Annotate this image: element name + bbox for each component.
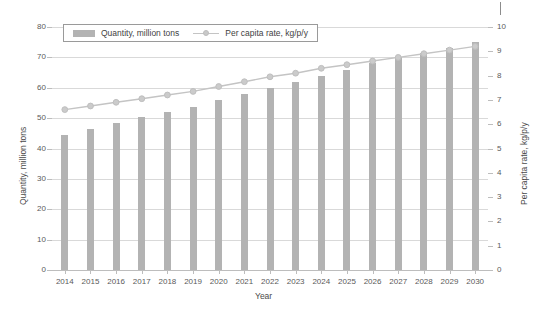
y2-axis-tick-label: 9	[497, 47, 531, 55]
plot-area	[52, 27, 488, 270]
line-marker	[472, 44, 478, 50]
x-axis-tick-label: 2022	[256, 278, 284, 286]
x-axis-title: Year	[255, 291, 272, 301]
x-axis-tick	[398, 270, 399, 274]
x-axis-tick	[347, 270, 348, 274]
y-axis-tick-label: 50	[12, 114, 46, 122]
y2-axis-tick-label: 10	[497, 23, 531, 31]
x-axis-tick-label: 2020	[205, 278, 233, 286]
line-marker	[242, 79, 248, 85]
line-marker	[113, 99, 119, 105]
x-axis-tick-label: 2015	[76, 278, 104, 286]
x-axis-tick-label: 2024	[307, 278, 335, 286]
line-marker	[293, 70, 299, 76]
x-axis-tick	[193, 270, 194, 274]
line-marker	[421, 51, 427, 57]
x-axis-tick	[90, 270, 91, 274]
line-marker	[165, 92, 171, 98]
page-corner-mark	[500, 2, 501, 15]
y-axis-tick-label: 30	[12, 175, 46, 183]
x-axis-tick	[475, 270, 476, 274]
y2-axis-tick-label: 8	[497, 72, 531, 80]
x-axis-tick-label: 2021	[230, 278, 258, 286]
y2-axis-tick-label: 1	[497, 242, 531, 250]
legend-label-per-capita: Per capita rate, kg/p/y	[225, 28, 308, 38]
line-marker	[318, 65, 324, 71]
legend-label-quantity: Quantity, million tons	[101, 28, 179, 38]
y2-axis-tick-label: 0	[497, 266, 531, 274]
y-axis-tick-label: 70	[12, 53, 46, 61]
y2-axis-tick-label: 7	[497, 96, 531, 104]
legend-bar-swatch-icon	[73, 30, 95, 37]
x-axis-tick	[296, 270, 297, 274]
x-axis-tick	[142, 270, 143, 274]
x-axis-tick-label: 2025	[333, 278, 361, 286]
line-marker	[395, 55, 401, 61]
line-marker	[447, 47, 453, 53]
y2-axis-tick-label: 3	[497, 193, 531, 201]
y-axis-tick-label: 0	[12, 266, 46, 274]
x-axis-tick	[424, 270, 425, 274]
y-axis-tick	[47, 240, 52, 241]
y-axis-tick	[47, 88, 52, 89]
y-axis-tick	[47, 118, 52, 119]
x-axis-tick-label: 2028	[410, 278, 438, 286]
y2-axis-tick	[488, 124, 493, 125]
x-axis-tick-label: 2018	[153, 278, 181, 286]
y2-axis-tick	[488, 27, 493, 28]
y-axis-tick	[47, 149, 52, 150]
legend-item-per-capita: Per capita rate, kg/p/y	[193, 28, 308, 38]
x-axis-tick-label: 2030	[461, 278, 489, 286]
y-axis-tick	[47, 209, 52, 210]
line-marker	[62, 107, 68, 113]
x-axis-tick	[167, 270, 168, 274]
y-axis-tick-label: 60	[12, 84, 46, 92]
x-axis-tick-label: 2016	[102, 278, 130, 286]
legend-item-quantity: Quantity, million tons	[73, 28, 179, 38]
y-axis-tick	[47, 27, 52, 28]
chart-legend: Quantity, million tons Per capita rate, …	[63, 24, 318, 42]
line-marker	[370, 58, 376, 64]
x-axis-tick	[373, 270, 374, 274]
x-axis-tick	[65, 270, 66, 274]
x-axis-tick-label: 2023	[282, 278, 310, 286]
y2-axis-tick-label: 5	[497, 145, 531, 153]
y2-axis-tick-label: 2	[497, 217, 531, 225]
line-marker	[267, 74, 273, 80]
y2-axis-tick	[488, 246, 493, 247]
y-axis-tick-label: 20	[12, 205, 46, 213]
x-axis-tick-label: 2026	[359, 278, 387, 286]
x-axis-tick	[219, 270, 220, 274]
x-axis-tick-label: 2029	[436, 278, 464, 286]
y-axis-tick	[47, 270, 52, 271]
y-axis-tick	[47, 179, 52, 180]
chart-container: Quantity, million tons Per capita rate, …	[0, 0, 537, 310]
y2-axis-tick-label: 4	[497, 169, 531, 177]
line-marker	[88, 103, 94, 109]
x-axis-tick	[321, 270, 322, 274]
line-series	[52, 27, 488, 270]
line-marker	[344, 62, 350, 68]
y2-axis-tick	[488, 173, 493, 174]
x-axis-tick	[116, 270, 117, 274]
y-axis-title: Quantity, million tons	[18, 127, 28, 205]
y-axis-tick-label: 40	[12, 145, 46, 153]
y-axis-tick-label: 80	[12, 23, 46, 31]
y2-axis-tick	[488, 270, 493, 271]
x-axis-tick	[270, 270, 271, 274]
line-marker	[139, 96, 145, 102]
x-axis-tick-label: 2017	[128, 278, 156, 286]
y2-axis-tick	[488, 197, 493, 198]
line-marker	[216, 84, 222, 90]
y2-axis-tick	[488, 51, 493, 52]
x-axis-tick-label: 2014	[51, 278, 79, 286]
y-axis-tick-label: 10	[12, 236, 46, 244]
x-axis-tick	[244, 270, 245, 274]
y2-axis-tick	[488, 76, 493, 77]
legend-line-swatch-icon	[193, 29, 219, 37]
x-axis-tick-label: 2019	[179, 278, 207, 286]
x-axis-tick-label: 2027	[384, 278, 412, 286]
y2-axis-tick	[488, 221, 493, 222]
y-axis-tick	[47, 57, 52, 58]
y2-axis-tick-label: 6	[497, 120, 531, 128]
